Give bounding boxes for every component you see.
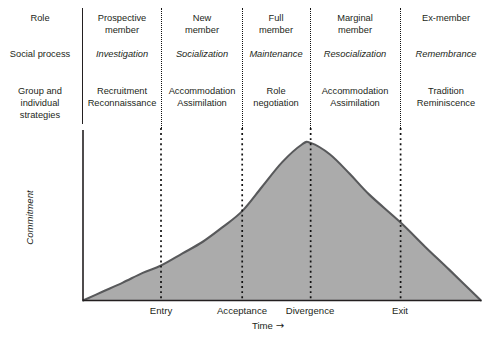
y-axis-title: Commitment: [24, 173, 35, 263]
commitment-curve-chart: Commitment Entry Acceptance Divergence E…: [0, 0, 497, 340]
chart-svg: [0, 0, 497, 340]
x-tick-exit-text: Exit: [392, 305, 408, 316]
x-tick-label-acceptance: Acceptance: [217, 305, 267, 316]
x-tick-acceptance-text: Acceptance: [217, 305, 267, 316]
x-tick-label-exit: Exit: [392, 305, 408, 316]
figure-root: Role Social process Group and individual…: [0, 0, 497, 340]
x-axis-title-text: Time: [252, 320, 273, 331]
x-axis-title: Time →: [252, 320, 284, 331]
y-axis-title-text: Commitment: [24, 190, 35, 244]
x-tick-label-divergence: Divergence: [286, 305, 335, 316]
commitment-area-path: [83, 142, 481, 301]
x-tick-label-entry: Entry: [150, 305, 172, 316]
x-tick-divergence-text: Divergence: [286, 305, 335, 316]
right-arrow-icon: →: [276, 320, 284, 331]
x-tick-entry-text: Entry: [150, 305, 172, 316]
